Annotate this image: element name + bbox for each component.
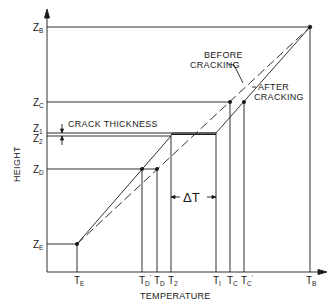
point-c bbox=[228, 100, 231, 103]
delta-t-label: ΔT bbox=[183, 190, 200, 205]
crack-thickness-label: CRACK THICKNESS bbox=[68, 119, 158, 129]
x-tick-tc-prime: TC' bbox=[241, 274, 253, 287]
temperature-height-diagram: ZB ZC Z1 Z2 ZD ZE TE TD' TD T2 TI TC TC'… bbox=[0, 0, 333, 305]
y-tick-zd: ZD bbox=[33, 164, 44, 176]
y-tick-ze: ZE bbox=[33, 239, 44, 251]
before-cracking-label-line1: BEFORE bbox=[204, 50, 243, 60]
x-tick-tc: TC bbox=[227, 275, 238, 287]
point-d bbox=[155, 167, 158, 170]
before-cracking-label-line2: CRACKING bbox=[190, 60, 240, 70]
x-tick-tb: TB bbox=[306, 275, 316, 287]
y-axis-title: HEIGHT bbox=[12, 146, 22, 182]
x-tick-t2: T2 bbox=[168, 275, 178, 287]
point-e bbox=[75, 242, 78, 245]
x-tick-te: TE bbox=[74, 275, 85, 287]
point-b bbox=[308, 25, 312, 29]
y-tick-zb: ZB bbox=[33, 22, 43, 34]
x-tick-td-prime: TD' bbox=[139, 274, 151, 287]
point-d-prime bbox=[140, 167, 143, 170]
after-cracking-label-line1: AFTER bbox=[258, 82, 289, 92]
x-tick-td: TD bbox=[154, 275, 165, 287]
y-axis-arrow-icon bbox=[45, 9, 50, 18]
point-c-prime bbox=[242, 100, 245, 103]
x-axis-title: TEMPERATURE bbox=[140, 291, 211, 301]
x-tick-ti: TI bbox=[213, 275, 221, 287]
y-tick-zc: ZC bbox=[33, 97, 44, 109]
x-axis-arrow-icon bbox=[318, 270, 327, 275]
after-cracking-label-line2: CRACKING bbox=[254, 92, 304, 102]
